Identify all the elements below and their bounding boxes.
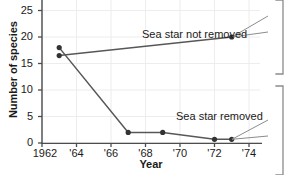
- y-tick-label-10: 10: [3, 83, 33, 95]
- bracket-lower: [276, 86, 283, 175]
- data-point: [57, 45, 62, 50]
- y-tick-label-20: 20: [3, 30, 33, 42]
- data-point: [57, 53, 62, 58]
- y-axis-title: Number of species: [7, 30, 19, 118]
- annotation-sea-star-removed: Sea star removed: [176, 110, 263, 122]
- x-tick-label-1974: '74: [229, 147, 269, 159]
- callout-brackets: [276, 0, 283, 175]
- y-tick-label-15: 15: [3, 57, 33, 69]
- annotation-sea-star-not-removed: Sea star not removed: [142, 28, 247, 40]
- x-axis-title: Year: [42, 158, 260, 170]
- data-point: [160, 130, 165, 135]
- data-point: [126, 130, 131, 135]
- data-point: [212, 137, 217, 142]
- y-tick-label-25: 25: [3, 4, 33, 16]
- line-chart-figure: Number of species Year 0 5 10 15 20 25 1…: [0, 0, 285, 175]
- y-tick-label-5: 5: [3, 110, 33, 122]
- bracket-upper: [276, 0, 283, 74]
